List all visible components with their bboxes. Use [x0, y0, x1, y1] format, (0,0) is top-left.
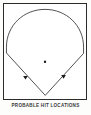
field-outline-path: [6, 9, 83, 95]
diagram-panel: [3, 3, 87, 100]
pitchers-mound-marker: [44, 61, 46, 63]
probable-hit-locations-figure: PROBABLE HIT LOCATIONS: [0, 0, 91, 115]
figure-caption: PROBABLE HIT LOCATIONS: [0, 103, 91, 109]
third-base-marker: [23, 76, 28, 80]
baseball-field-diagram: [4, 4, 86, 99]
